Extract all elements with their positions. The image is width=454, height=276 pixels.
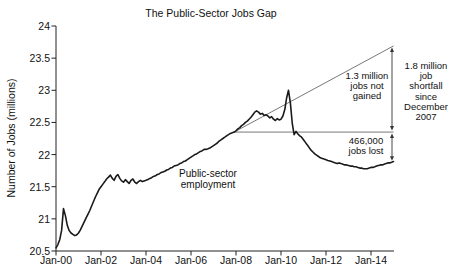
- jobs-lost-annotation: 466,000 jobs lost: [326, 136, 406, 157]
- jobs-not-gained-annotation: 1.3 million jobs not gained: [327, 71, 407, 101]
- shortfall-arrow-head-bottom: [390, 126, 394, 131]
- chart-figure: 2423.52322.52221.52120.5 Jan-00Jan-02Jan…: [0, 0, 454, 276]
- series-annotation: Public-sector employment: [148, 169, 268, 190]
- y-axis-label: Number of Jobs (millions): [5, 38, 17, 238]
- chart-title: The Public-Sector Jobs Gap: [55, 7, 367, 19]
- shortfall-annotation: 1.8 million job shortfall since December…: [398, 61, 454, 122]
- jobs-lost-arrow-head-bottom: [390, 156, 394, 161]
- shortfall-arrow-head-top: [390, 47, 394, 52]
